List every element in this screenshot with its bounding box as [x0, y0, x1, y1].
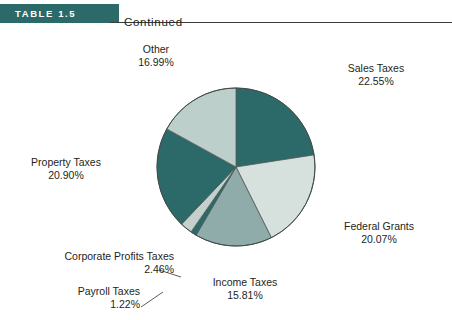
pie-label-other-name: Other: [113, 43, 199, 56]
pie-slice-sales-taxes: [236, 88, 314, 167]
pie-label-income-taxes-name: Income Taxes: [199, 276, 291, 289]
pie-label-corporate-profits-taxes-value: 2.46%: [8, 263, 174, 276]
pie-label-sales-taxes-name: Sales Taxes: [330, 62, 422, 75]
pie-label-income-taxes-value: 15.81%: [199, 289, 291, 302]
pie-label-property-taxes: Property Taxes 20.90%: [14, 156, 118, 181]
pie-label-property-taxes-value: 20.90%: [14, 169, 118, 182]
pie-label-income-taxes: Income Taxes 15.81%: [199, 276, 291, 301]
pie-chart: Other 16.99% Sales Taxes 22.55% Federal …: [0, 30, 452, 320]
leader-line-group: [141, 270, 181, 307]
pie-label-sales-taxes: Sales Taxes 22.55%: [330, 62, 422, 87]
pie-label-federal-grants-name: Federal Grants: [331, 220, 427, 233]
pie-label-federal-grants-value: 20.07%: [331, 233, 427, 246]
pie-label-federal-grants: Federal Grants 20.07%: [331, 220, 427, 245]
leader-line-payroll-taxes: [141, 292, 163, 307]
continued-label: Continued: [124, 16, 183, 28]
pie-slice-group: [157, 88, 315, 246]
pie-label-sales-taxes-value: 22.55%: [330, 75, 422, 88]
pie-label-corporate-profits-taxes-name: Corporate Profits Taxes: [8, 250, 174, 263]
pie-label-corporate-profits-taxes: Corporate Profits Taxes 2.46%: [8, 250, 174, 275]
pie-label-payroll-taxes: Payroll Taxes 1.22%: [18, 285, 140, 310]
pie-label-other-value: 16.99%: [113, 56, 199, 69]
pie-label-payroll-taxes-value: 1.22%: [18, 298, 140, 311]
pie-label-property-taxes-name: Property Taxes: [14, 156, 118, 169]
pie-label-payroll-taxes-name: Payroll Taxes: [18, 285, 140, 298]
pie-label-other: Other 16.99%: [113, 43, 199, 68]
table-number-label: TABLE 1.5: [15, 8, 76, 19]
